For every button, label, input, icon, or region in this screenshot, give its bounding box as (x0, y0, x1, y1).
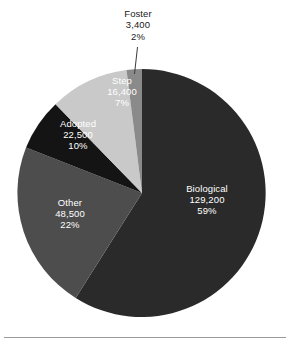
footer-caption-clipped (28, 342, 286, 350)
footer-divider (4, 337, 286, 338)
pie-chart-figure: Biological 129,200 59% Other 48,500 22% … (0, 0, 290, 350)
pie-chart-graphic (0, 0, 290, 350)
